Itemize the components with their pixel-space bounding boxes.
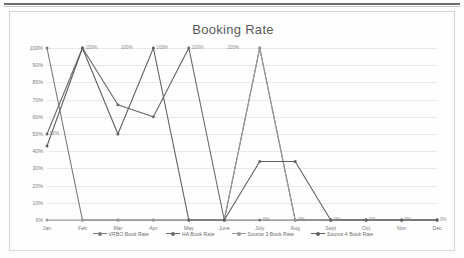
page-top-rule: [4, 3, 460, 5]
series-marker: [116, 219, 119, 222]
series-line: [47, 48, 437, 220]
y-axis-tick-label: 0%: [36, 217, 44, 223]
chart-title: Booking Rate: [10, 22, 456, 37]
series-marker: [116, 103, 119, 106]
series-marker: [187, 47, 190, 50]
data-label: 100%: [156, 45, 168, 50]
series-marker: [294, 160, 297, 163]
y-axis-tick-label: 100%: [30, 45, 43, 51]
legend-label: Source 3 Book Rate: [248, 231, 294, 237]
series-marker: [258, 160, 261, 163]
y-axis-tick-label: 20%: [33, 183, 43, 189]
series-marker: [365, 219, 368, 222]
chart-page: Booking Rate 100%90%80%70%60%50%40%30%20…: [0, 0, 464, 258]
legend-swatch-icon: [232, 230, 246, 237]
y-axis-tick-label: 30%: [33, 165, 43, 171]
data-label: 0%: [334, 217, 341, 222]
legend-swatch-icon: [93, 230, 107, 237]
series-marker: [329, 219, 332, 222]
data-label: 100%: [85, 45, 97, 50]
series-marker: [294, 219, 297, 222]
data-label: 0%: [440, 217, 447, 222]
series-marker: [152, 115, 155, 118]
data-label: 100%: [121, 45, 133, 50]
plot-area: 100%90%80%70%60%50%40%30%20%10%0% JanFeb…: [47, 48, 437, 220]
y-axis-tick-label: 10%: [33, 200, 43, 206]
series-marker: [81, 47, 84, 50]
series-marker: [152, 219, 155, 222]
y-axis-tick-label: 40%: [33, 148, 43, 154]
chart-legend[interactable]: VRBO Book RateHA Book RateSource 3 Book …: [10, 230, 456, 237]
series-marker: [46, 219, 49, 222]
legend-swatch-icon: [311, 230, 325, 237]
data-label: 0%: [405, 217, 412, 222]
series-marker: [400, 219, 403, 222]
y-axis-tick-label: 60%: [33, 114, 43, 120]
legend-item[interactable]: VRBO Book Rate: [93, 230, 149, 237]
y-axis-tick-label: 90%: [33, 62, 43, 68]
y-axis-tick-label: 50%: [33, 131, 43, 137]
series-marker: [258, 47, 261, 50]
y-axis-tick-label: 80%: [33, 79, 43, 85]
series-marker: [81, 219, 84, 222]
series-marker: [46, 47, 49, 50]
data-label: 0%: [298, 217, 305, 222]
series-marker: [187, 219, 190, 222]
series-marker: [46, 145, 49, 148]
data-label: 100%: [192, 45, 204, 50]
series-marker: [436, 219, 439, 222]
data-label: 100%: [227, 45, 239, 50]
data-label: 0%: [369, 217, 376, 222]
series-marker: [46, 133, 49, 136]
legend-item[interactable]: Source 3 Book Rate: [232, 230, 294, 237]
series-lines: [47, 48, 437, 220]
data-label: 0%: [263, 217, 270, 222]
series-marker: [258, 219, 261, 222]
legend-label: Source 4 Book Rate: [327, 231, 373, 237]
legend-label: VRBO Book Rate: [109, 231, 149, 237]
chart-container[interactable]: Booking Rate 100%90%80%70%60%50%40%30%20…: [9, 11, 455, 251]
page-bottom-rule: [9, 250, 455, 251]
series-marker: [223, 219, 226, 222]
y-axis-tick-label: 70%: [33, 97, 43, 103]
legend-swatch-icon: [166, 230, 180, 237]
legend-item[interactable]: HA Book Rate: [166, 230, 215, 237]
data-label: 50%: [50, 131, 59, 136]
series-marker: [116, 133, 119, 136]
series-marker: [152, 47, 155, 50]
page-top-rule-secondary: [4, 6, 460, 7]
legend-item[interactable]: Source 4 Book Rate: [311, 230, 373, 237]
legend-label: HA Book Rate: [182, 231, 215, 237]
